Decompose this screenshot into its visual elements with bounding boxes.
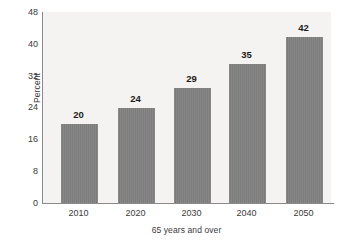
bar-2030[interactable] (174, 88, 211, 203)
bar-chart-figure: Percent 48 40 32 24 16 8 0 20 24 29 35 4… (0, 0, 347, 241)
bar-2050[interactable] (286, 37, 323, 203)
x-tick-label-2040: 2040 (223, 208, 270, 219)
bar-2010[interactable] (61, 124, 98, 203)
x-tick-label-2020: 2020 (112, 208, 159, 219)
y-tick-label: 40 (22, 40, 38, 49)
x-axis-line (42, 203, 334, 204)
bar-value-2040: 35 (228, 50, 265, 60)
y-tick-label: 0 (22, 199, 38, 208)
y-tick-label: 48 (22, 8, 38, 17)
bar-value-2020: 24 (117, 94, 154, 104)
x-axis-title: 65 years and over (42, 225, 331, 235)
bar-2040[interactable] (229, 64, 266, 203)
bar-2020[interactable] (118, 108, 155, 203)
plot-area (42, 12, 331, 203)
y-tick-label: 32 (22, 72, 38, 81)
x-tick-label-2010: 2010 (55, 208, 102, 219)
bar-value-2010: 20 (60, 110, 97, 120)
y-tick-label: 8 (22, 167, 38, 176)
y-tick-label: 16 (22, 135, 38, 144)
y-axis-ticks: 48 40 32 24 16 8 0 (20, 0, 38, 241)
x-tick-label-2050: 2050 (280, 208, 327, 219)
bar-value-2050: 42 (285, 23, 322, 33)
x-tick-label-2030: 2030 (168, 208, 215, 219)
y-tick-label: 24 (22, 103, 38, 112)
bar-value-2030: 29 (173, 74, 210, 84)
